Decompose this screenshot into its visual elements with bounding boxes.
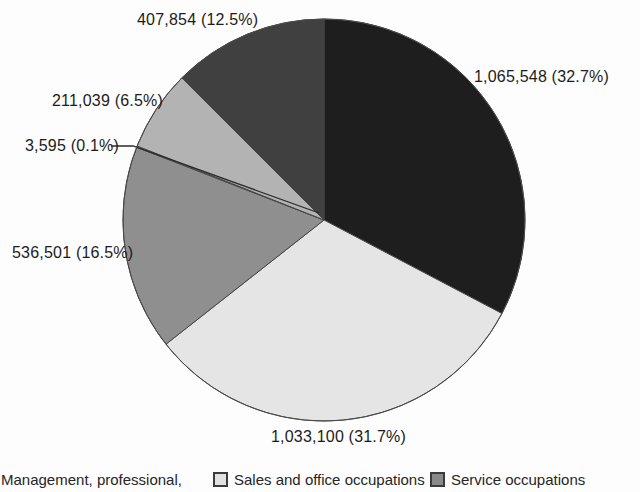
legend-label: Sales and office occupations — [234, 471, 425, 488]
pie-chart-figure: 1,065,548 (32.7%) 1,033,100 (31.7%) 536,… — [0, 0, 640, 492]
legend-swatch-service-icon — [430, 472, 445, 487]
legend-item-management: Management, professional, — [1, 471, 182, 488]
slice-label-sales: 1,033,100 (31.7%) — [271, 428, 406, 446]
legend-item-sales: Sales and office occupations — [213, 471, 425, 488]
slice-label-service: 536,501 (16.5%) — [12, 244, 133, 262]
pie-slices — [123, 19, 525, 421]
slice-label-management: 1,065,548 (32.7%) — [474, 68, 609, 86]
legend-item-service: Service occupations — [430, 471, 585, 488]
slice-label-small: 211,039 (6.5%) — [52, 92, 163, 110]
legend-label: Service occupations — [451, 471, 585, 488]
slice-label-tiny: 3,595 (0.1%) — [25, 137, 119, 155]
legend-label: Management, professional, — [1, 471, 182, 488]
legend-swatch-sales-icon — [213, 472, 228, 487]
slice-label-top: 407,854 (12.5%) — [137, 11, 258, 29]
